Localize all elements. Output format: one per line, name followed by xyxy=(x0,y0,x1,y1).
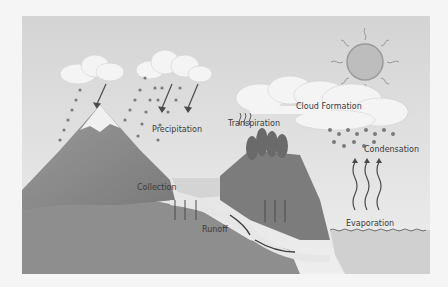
water-cycle-diagram: Precipitation Transpiration Cloud Format… xyxy=(0,0,448,287)
label-collection: Collection xyxy=(137,183,177,192)
label-runoff: Runoff xyxy=(202,225,228,234)
label-transpiration: Transpiration xyxy=(227,119,280,128)
label-precipitation: Precipitation xyxy=(152,125,202,134)
label-evaporation: Evaporation xyxy=(346,219,394,228)
label-cloud-formation: Cloud Formation xyxy=(296,102,362,111)
label-condensation: Condensation xyxy=(364,145,419,154)
ocean xyxy=(330,230,430,274)
